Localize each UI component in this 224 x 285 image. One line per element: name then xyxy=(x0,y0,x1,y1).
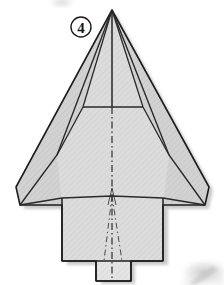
diagram-canvas: 4 xyxy=(0,0,224,285)
paper-airplane-diagram: 4 xyxy=(0,0,224,285)
step-badge-label: 4 xyxy=(77,20,85,36)
step-number-badge: 4 xyxy=(71,17,91,37)
tail-tab-fill xyxy=(96,261,131,281)
